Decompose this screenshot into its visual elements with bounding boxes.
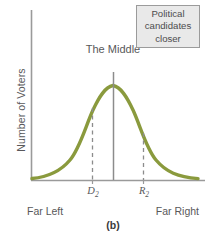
legend-note-text: Political candidates closer [137, 8, 199, 45]
candidate-r2-label: R2 [135, 185, 153, 200]
candidate-d2-letter: D [87, 185, 95, 196]
panel-caption: (b) [83, 219, 143, 231]
y-axis-label: Number of Voters [15, 48, 27, 172]
candidate-r2-subscript: 2 [145, 190, 149, 199]
x-axis-right-label: Far Right [145, 205, 199, 217]
legend-note-box: Political candidates closer [136, 5, 200, 48]
voter-distribution-curve [32, 86, 198, 179]
x-axis-left-label: Far Left [27, 205, 63, 217]
candidate-d2-label: D2 [84, 185, 102, 200]
figure-panel-b: Number of Voters The Middle Political ca… [0, 0, 209, 240]
candidate-d2-subscript: 2 [95, 190, 99, 199]
